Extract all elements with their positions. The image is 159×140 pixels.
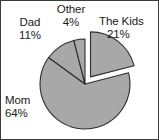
- slice-label-other-percent: 4%: [49, 16, 93, 29]
- slice-label-mom-name: Mom: [5, 94, 49, 107]
- slice-label-dad-name: Dad: [11, 16, 49, 29]
- pie-chart-figure: The Kids 21% Other 4% Dad 11% Mom 64%: [0, 0, 159, 140]
- slice-label-mom: Mom 64%: [5, 94, 49, 119]
- slice-label-mom-percent: 64%: [5, 107, 49, 120]
- slice-label-other: Other 4%: [49, 3, 93, 28]
- slice-label-other-name: Other: [49, 3, 93, 16]
- slice-label-dad: Dad 11%: [11, 16, 49, 41]
- slice-label-the-kids-percent: 21%: [99, 28, 144, 41]
- pie-slice-group: [40, 32, 134, 129]
- slice-label-the-kids-name: The Kids: [99, 15, 144, 28]
- slice-label-dad-percent: 11%: [11, 29, 49, 42]
- slice-label-the-kids: The Kids 21%: [99, 15, 144, 40]
